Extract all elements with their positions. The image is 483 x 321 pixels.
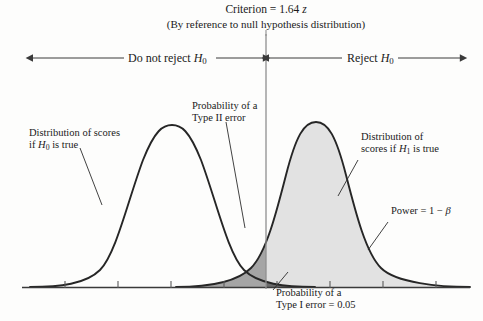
annotation-power-symbol: β: [445, 205, 450, 216]
annotation-type-ii-line2: Type II error: [192, 112, 257, 124]
annotation-h1-line2-pre: scores if: [361, 143, 399, 154]
annotation-h0-line2-post: is true: [50, 139, 79, 150]
criterion-title-text: Criterion = 1.64: [225, 3, 302, 15]
annotation-h0-line2: if H0 is true: [29, 139, 120, 152]
region-do-not-reject-text: Do not reject: [128, 51, 194, 65]
leader-line-h0-distribution: [80, 148, 102, 205]
statistical-power-figure: Criterion = 1.64 z (By reference to null…: [0, 0, 483, 321]
annotation-h1-line1: Distribution of: [361, 131, 439, 143]
annotation-type-i-error: Probability of a Type I error = 0.05: [276, 287, 356, 312]
annotation-h0-line2-h: H: [38, 139, 46, 150]
region-reject-text: Reject: [347, 51, 381, 65]
annotation-h1-line2-post: is true: [410, 143, 439, 154]
annotation-type-i-line1: Probability of a: [276, 287, 356, 299]
annotation-h0-line1: Distribution of scores: [29, 127, 120, 139]
region-do-not-reject-label: Do not reject H0: [128, 51, 207, 67]
annotation-type-i-line2: Type I error = 0.05: [276, 299, 356, 311]
annotation-power-text: Power = 1 −: [391, 205, 445, 216]
annotation-h1-distribution: Distribution of scores if H1 is true: [361, 131, 439, 157]
region-do-not-reject-sub: 0: [202, 56, 206, 66]
criterion-subtitle: (By reference to null hypothesis distrib…: [136, 18, 396, 31]
leader-line-power: [368, 222, 388, 250]
criterion-title-symbol: z: [302, 3, 306, 15]
annotation-h1-line2: scores if H1 is true: [361, 143, 439, 156]
annotation-h1-line2-h: H: [399, 143, 407, 154]
annotation-h0-line2-pre: if: [29, 139, 38, 150]
annotation-type-ii-error: Probability of a Type II error: [192, 100, 257, 125]
annotation-power: Power = 1 − β: [391, 205, 451, 217]
annotation-h0-distribution: Distribution of scores if H0 is true: [29, 127, 120, 153]
annotation-type-ii-line1: Probability of a: [192, 100, 257, 112]
criterion-title: Criterion = 1.64 z: [166, 3, 366, 17]
leader-line-type-ii: [226, 122, 245, 228]
figure-canvas: [0, 0, 483, 321]
region-reject-label: Reject H0: [347, 51, 394, 67]
region-reject-sub: 0: [389, 56, 393, 66]
